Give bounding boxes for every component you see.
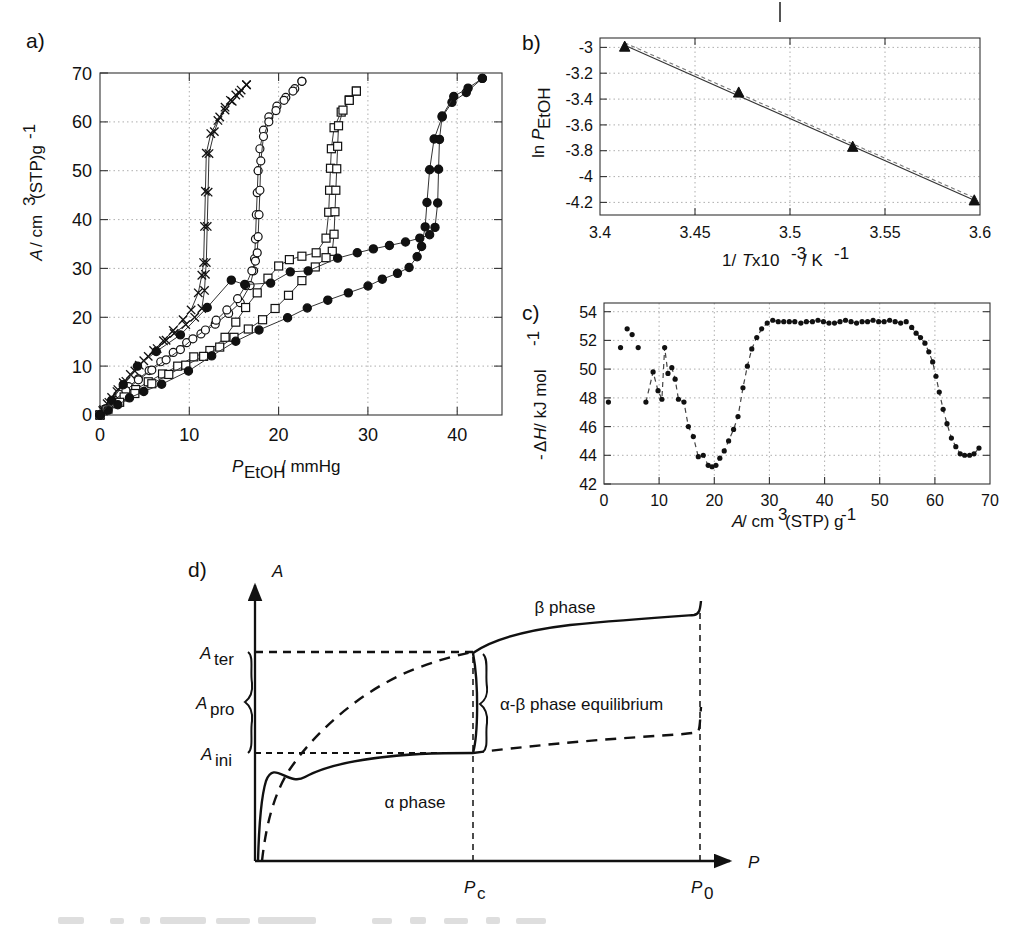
data-marker <box>271 304 279 312</box>
panel-d-p0-label: P 0 <box>691 878 713 903</box>
data-marker <box>401 238 409 246</box>
data-marker <box>949 435 954 440</box>
data-marker <box>353 249 361 257</box>
series-line-circle-desorption <box>100 81 302 415</box>
svg-text:-1: -1 <box>20 124 39 139</box>
svg-text:A: A <box>195 694 207 713</box>
data-marker <box>413 253 421 261</box>
data-marker <box>369 245 377 253</box>
svg-text:x10: x10 <box>752 251 779 270</box>
svg-text:50: 50 <box>72 161 92 181</box>
data-marker <box>312 249 320 257</box>
panel-c-yaxis-title: - Δ H / kJ mol -1 <box>524 331 550 460</box>
data-marker <box>162 356 170 364</box>
data-marker <box>216 343 224 351</box>
data-marker <box>385 241 393 249</box>
data-marker <box>735 414 740 419</box>
svg-text:52: 52 <box>579 332 597 349</box>
svg-text:30: 30 <box>72 259 92 279</box>
data-marker <box>876 319 881 324</box>
data-marker <box>691 434 696 439</box>
data-marker <box>265 118 273 126</box>
panel-c-svg: c) <box>500 272 1014 530</box>
svg-text:70: 70 <box>981 492 999 509</box>
data-marker <box>696 454 701 459</box>
svg-text:10: 10 <box>650 492 668 509</box>
svg-text:-4.2: -4.2 <box>565 194 593 211</box>
data-marker <box>244 325 252 333</box>
data-marker <box>119 381 127 389</box>
svg-text:3.6: 3.6 <box>969 224 991 241</box>
data-marker <box>393 269 401 277</box>
data-marker <box>976 445 981 450</box>
data-marker <box>289 87 297 95</box>
data-marker <box>334 142 342 150</box>
panel-b-ytick-labels: -3 -3.2 -3.4 -3.6 -3.8 -4 -4.2 <box>565 39 593 211</box>
data-marker <box>669 365 674 370</box>
svg-text:ini: ini <box>215 751 232 770</box>
data-marker <box>304 267 312 275</box>
svg-text:3.5: 3.5 <box>779 224 801 241</box>
data-marker <box>431 223 439 231</box>
data-marker <box>158 380 166 388</box>
panel-b-xaxis-title: 1/ T x10 -3 / K -1 <box>722 244 849 270</box>
data-marker <box>759 326 764 331</box>
data-marker <box>418 242 426 250</box>
panel-b-yaxis-title: ln P EtOH <box>529 87 554 158</box>
data-marker <box>275 262 283 270</box>
panel-b-svg: b) <box>500 0 1014 280</box>
data-marker <box>893 319 898 324</box>
data-marker <box>967 453 972 458</box>
panel-a-yaxis-title: A / cm 3 (STP)g -1 <box>20 124 46 262</box>
data-marker <box>625 326 630 331</box>
panel-a-xtick-labels: 0 10 20 30 40 <box>95 425 467 445</box>
panel-d-y-axis-title: A <box>271 562 283 581</box>
data-marker <box>832 321 837 326</box>
data-marker <box>334 254 342 262</box>
panel-d-alpha-label: α phase <box>385 793 446 812</box>
data-marker <box>810 319 815 324</box>
data-marker <box>96 411 104 419</box>
data-marker <box>257 157 265 165</box>
svg-text:A: A <box>27 249 46 261</box>
svg-text:/ K: / K <box>802 251 823 270</box>
svg-text:-1: -1 <box>834 244 849 263</box>
data-marker <box>174 362 182 370</box>
data-marker <box>713 463 718 468</box>
svg-text:ln: ln <box>529 145 548 158</box>
data-marker <box>148 366 156 374</box>
data-marker <box>618 345 623 350</box>
panel-a-ytick-labels: 0 10 20 30 40 50 60 70 <box>72 64 92 426</box>
data-marker <box>234 295 242 303</box>
svg-text:-3.4: -3.4 <box>565 91 593 108</box>
panel-b-frame <box>600 38 980 215</box>
data-marker <box>267 279 275 287</box>
data-marker <box>971 451 976 456</box>
data-marker <box>843 318 848 323</box>
svg-text:20: 20 <box>72 308 92 328</box>
svg-text:1/: 1/ <box>722 251 736 270</box>
data-marker <box>854 321 859 326</box>
svg-text:50: 50 <box>579 361 597 378</box>
data-marker <box>745 364 750 369</box>
data-marker <box>781 319 786 324</box>
data-marker <box>345 96 353 104</box>
panel-d-svg: d) A P <box>170 525 870 925</box>
svg-text:-1: -1 <box>524 331 543 346</box>
data-marker <box>722 448 727 453</box>
panel-d-apro-brace <box>245 652 252 753</box>
data-marker <box>650 369 655 374</box>
svg-text:Δ: Δ <box>531 441 550 452</box>
data-marker <box>416 234 424 242</box>
data-marker <box>904 319 909 324</box>
data-marker <box>620 41 630 51</box>
panel-b-data <box>620 41 980 205</box>
data-marker <box>765 321 770 326</box>
panel-a-xticks <box>189 73 457 415</box>
svg-text:40: 40 <box>72 210 92 230</box>
data-marker <box>898 321 903 326</box>
svg-text:0: 0 <box>704 884 713 903</box>
data-marker <box>125 394 133 402</box>
svg-text:20: 20 <box>269 425 289 445</box>
data-marker <box>450 92 458 100</box>
